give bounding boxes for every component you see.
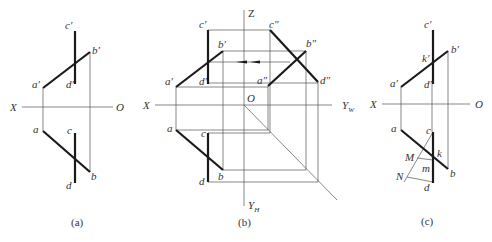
figure-b: Z X O YW YH c′ b′ a′ d′ c″ b″ a″ d″ a c …: [142, 7, 355, 229]
axis-label-o: O: [475, 98, 483, 110]
label-d: d: [424, 181, 430, 193]
label-a-prime: a′: [390, 77, 399, 89]
label-c-prime: c′: [65, 19, 73, 31]
line-ab-top: [176, 130, 223, 170]
label-c: c: [67, 124, 72, 136]
label-b: b: [450, 167, 456, 179]
label-b: b: [91, 170, 97, 182]
arrow-icon-left-2: [250, 61, 260, 64]
label-M: M: [404, 151, 415, 163]
label-c: c: [426, 124, 431, 136]
construction-line-Mm: [417, 158, 433, 160]
diagonal-45-line: [244, 105, 337, 200]
figure-c: X O c′ b′ k′ a′ d′ a c k M m N b d (c): [369, 18, 483, 228]
label-c-prime: c′: [424, 18, 432, 30]
label-d-dprime: d″: [320, 74, 331, 86]
label-b-prime: b′: [92, 44, 101, 56]
line-ab-top: [43, 131, 90, 172]
figure-a: X O c′ b′ a′ d′ a c b d (a): [9, 19, 124, 229]
axis-label-yw: YW: [342, 99, 355, 114]
projection-diagrams: X O c′ b′ a′ d′ a c b d (a): [0, 0, 492, 242]
label-a-prime: a′: [165, 75, 174, 87]
axis-label-yh: YH: [248, 199, 260, 214]
axis-label-o: O: [116, 101, 124, 113]
label-d-prime: d′: [424, 78, 433, 90]
label-k: k: [437, 147, 443, 159]
label-b-prime: b′: [451, 43, 460, 55]
label-d-prime: d′: [199, 75, 208, 87]
label-d: d: [66, 179, 72, 191]
axis-label-x: X: [369, 98, 378, 110]
label-a-prime: a′: [32, 78, 41, 90]
axis-label-o: O: [247, 92, 255, 104]
axis-label-x: X: [9, 101, 18, 113]
label-a: a: [33, 123, 39, 135]
label-d-prime: d′: [66, 78, 75, 90]
label-a: a: [167, 122, 173, 134]
label-a: a: [391, 122, 397, 134]
axis-label-z: Z: [248, 7, 255, 19]
label-m: m: [422, 162, 430, 174]
label-N: N: [395, 170, 404, 182]
arrow-icon-left-1: [236, 61, 247, 64]
label-k-prime: k′: [422, 52, 430, 64]
axis-label-x: X: [142, 99, 151, 111]
label-b-dprime: b″: [306, 37, 317, 49]
caption-b: (b): [238, 216, 251, 229]
caption-c: (c): [421, 215, 434, 228]
caption-a: (a): [71, 216, 84, 229]
line-ab-side: [268, 51, 306, 86]
label-c: c: [201, 127, 206, 139]
label-d: d: [199, 175, 205, 187]
label-c-dprime: c″: [269, 18, 279, 30]
label-b-prime: b′: [218, 38, 227, 50]
label-b: b: [218, 170, 224, 182]
label-a-dprime: a″: [257, 74, 268, 86]
label-c-prime: c′: [199, 18, 207, 30]
